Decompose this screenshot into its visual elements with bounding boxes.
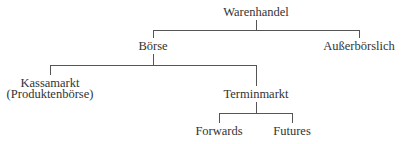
connector-root-stem xyxy=(256,20,257,30)
node-terminmarkt: Terminmarkt xyxy=(223,89,288,100)
connector-boerse-branch xyxy=(50,65,257,66)
connector-terminmarkt-branch xyxy=(219,113,293,114)
connector-to-futures xyxy=(292,113,293,123)
node-label: Außerbörslich xyxy=(323,39,395,53)
node-sublabel: (Produktenbörse) xyxy=(7,89,94,100)
connector-to-boerse xyxy=(153,30,154,38)
connector-to-forwards xyxy=(219,113,220,123)
node-warenhandel: Warenhandel xyxy=(223,7,289,18)
node-label: Terminmarkt xyxy=(223,87,288,101)
connector-to-ausserboerslich xyxy=(359,30,360,38)
connector-terminmarkt-stem xyxy=(256,102,257,113)
node-futures: Futures xyxy=(273,126,311,137)
node-forwards: Forwards xyxy=(195,126,242,137)
node-boerse: Börse xyxy=(138,41,167,52)
connector-to-kassamarkt xyxy=(50,65,51,75)
node-label: Börse xyxy=(138,39,167,53)
node-ausserboerslich: Außerbörslich xyxy=(323,41,395,52)
node-label: Warenhandel xyxy=(223,5,289,19)
tree-diagram: Warenhandel Börse Außerbörslich Kassamar… xyxy=(0,0,403,144)
node-label: Forwards xyxy=(195,124,242,138)
connector-to-terminmarkt xyxy=(256,65,257,86)
connector-boerse-stem xyxy=(153,54,154,65)
node-kassamarkt: Kassamarkt (Produktenbörse) xyxy=(7,78,94,100)
connector-root-branch xyxy=(153,30,360,31)
node-label: Futures xyxy=(273,124,311,138)
